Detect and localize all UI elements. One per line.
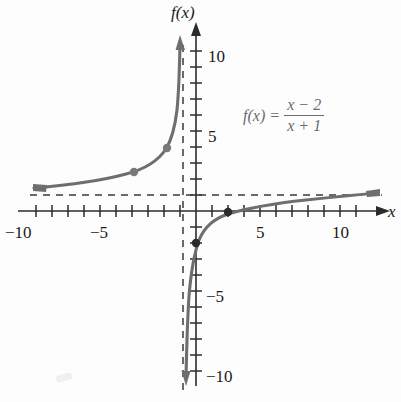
x-tick-label-minus10: −10	[5, 223, 32, 242]
point-minus2-4	[163, 144, 171, 152]
curve-left-branch	[34, 44, 180, 188]
curve-up-arrow	[176, 35, 186, 50]
point-x-intercept	[224, 208, 232, 216]
y-tick-label-5: 5	[208, 127, 217, 146]
formula-function-name: f(x)	[243, 107, 265, 125]
y-tick-label-minus10: −10	[206, 367, 233, 386]
point-y-intercept	[192, 239, 200, 247]
x-axis-label: x	[387, 202, 396, 221]
formula-denominator: x + 1	[284, 116, 324, 135]
y-tick-label-10: 10	[208, 47, 225, 66]
formula-fraction: x − 2 x + 1	[284, 96, 324, 135]
y-tick-label-minus5: −5	[206, 287, 224, 306]
x-tick-labels: −10 −5 5 10	[5, 223, 349, 242]
formula-numerator: x − 2	[284, 96, 324, 115]
axes-group	[18, 22, 390, 386]
point-minus4-2	[130, 168, 138, 176]
asymptotes-group	[30, 41, 382, 390]
curve-right-branch	[186, 193, 378, 378]
curve-left-arrow	[33, 184, 47, 192]
graph-figure: −10 −5 5 10 10 5 −5 −10 f(x) x f(x) = x …	[0, 0, 401, 402]
curve-right-arrow	[366, 189, 380, 197]
formula-equals-sign: =	[269, 107, 280, 125]
x-tick-label-5: 5	[256, 223, 265, 242]
function-formula-annotation: f(x) = x − 2 x + 1	[243, 96, 324, 135]
coordinate-plane: −10 −5 5 10 10 5 −5 −10 f(x) x	[0, 0, 401, 402]
y-axis-arrow-up	[191, 22, 201, 36]
y-axis-label: f(x)	[171, 3, 195, 22]
x-tick-label-10: 10	[332, 223, 349, 242]
x-tick-label-minus5: −5	[90, 223, 108, 242]
